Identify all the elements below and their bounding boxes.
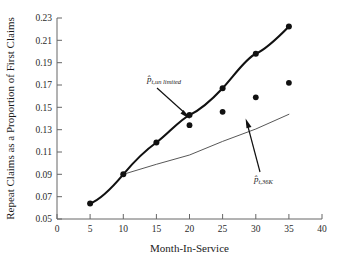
- y-tick-label: 0.21: [35, 36, 52, 46]
- data-point: [87, 200, 93, 206]
- data-point: [253, 94, 259, 100]
- y-tick-label: 0.11: [36, 147, 53, 157]
- x-tick-label: 5: [88, 224, 93, 234]
- y-tick-label: 0.05: [35, 214, 52, 224]
- y-tick-label: 0.17: [35, 80, 52, 90]
- data-point: [286, 80, 292, 86]
- y-tick-label: 0.13: [35, 125, 52, 135]
- y-tick-label: 0.19: [35, 58, 52, 68]
- x-axis-title: Month-In-Service: [150, 242, 229, 254]
- x-tick-label: 10: [119, 224, 129, 234]
- data-point: [253, 51, 259, 57]
- x-tick-label: 15: [152, 224, 162, 234]
- repeat-claims-line-chart: 0.05 0.07 0.09 0.11 0.13 0.15 0.17 0.19 …: [0, 0, 340, 262]
- data-point: [220, 85, 226, 91]
- x-tick-label: 30: [251, 224, 261, 234]
- x-tick-label: 25: [218, 224, 228, 234]
- y-tick-label: 0.23: [35, 13, 52, 23]
- x-tick-label: 20: [185, 224, 195, 234]
- x-tick-label: 35: [284, 224, 294, 234]
- y-tick-label: 0.15: [35, 103, 52, 113]
- x-tick-label: 0: [55, 224, 60, 234]
- y-tick-label: 0.07: [35, 192, 52, 202]
- data-point: [120, 171, 126, 177]
- y-tick-label: 0.09: [35, 170, 52, 180]
- data-point: [153, 140, 159, 146]
- data-point: [187, 122, 193, 128]
- data-point: [220, 109, 226, 115]
- data-point: [286, 23, 292, 29]
- y-axis-title: Repeat Claims as a Proportion of First C…: [4, 17, 16, 220]
- chart-figure: 0.05 0.07 0.09 0.11 0.13 0.15 0.17 0.19 …: [0, 0, 340, 262]
- x-tick-label: 40: [317, 224, 327, 234]
